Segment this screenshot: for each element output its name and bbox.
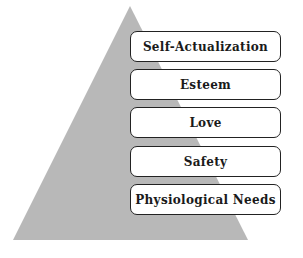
level-esteem: Esteem [130,69,281,100]
level-label: Self-Actualization [143,40,268,54]
level-label: Physiological Needs [135,193,275,207]
level-self-actualization: Self-Actualization [130,31,281,62]
level-label: Love [189,116,221,130]
level-label: Esteem [180,78,231,92]
level-love: Love [130,107,281,138]
level-physiological-needs: Physiological Needs [130,184,281,215]
level-label: Safety [184,155,228,169]
level-safety: Safety [130,146,281,177]
